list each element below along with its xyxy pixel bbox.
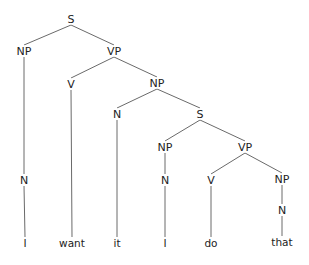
tree-node-np: NP (157, 142, 174, 153)
tree-edge (24, 25, 71, 45)
terminal-word: I (162, 238, 167, 249)
tree-edge (157, 89, 200, 108)
tree-edge (114, 57, 157, 77)
tree-node-s: S (67, 14, 76, 25)
tree-node-s: S (196, 109, 205, 120)
tree-edge (71, 90, 72, 237)
tree-edge (71, 25, 114, 45)
tree-node-vp: VP (106, 46, 122, 57)
tree-edge (165, 120, 200, 141)
terminal-word: I (22, 238, 27, 249)
tree-edge (211, 153, 245, 174)
terminal-word: that (270, 237, 293, 248)
tree-edge (71, 57, 114, 78)
tree-edge (24, 186, 25, 237)
tree-node-vp: VP (237, 142, 253, 153)
tree-edge (245, 153, 282, 173)
tree-node-n: N (277, 205, 287, 216)
tree-node-n: N (160, 175, 170, 186)
syntax-tree-diagram: SNPVPVNPNSNPVPNNVNPNIwantitIdothat (0, 0, 309, 265)
tree-node-np: NP (149, 78, 166, 89)
terminal-word: it (112, 238, 121, 249)
tree-edge (200, 120, 245, 141)
terminal-word: do (203, 238, 218, 249)
tree-node-np: NP (274, 174, 291, 185)
tree-node-v: V (66, 79, 76, 90)
tree-edge (117, 89, 157, 108)
tree-node-np: NP (16, 46, 33, 57)
tree-node-n: N (19, 175, 29, 186)
tree-node-v: V (206, 175, 216, 186)
tree-node-n: N (112, 109, 122, 120)
tree-edges (0, 0, 309, 265)
terminal-word: want (58, 238, 86, 249)
